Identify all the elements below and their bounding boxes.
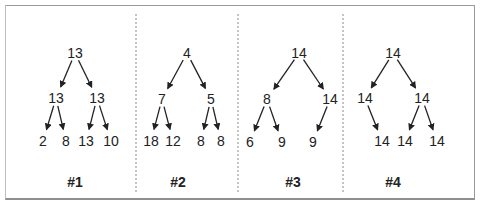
- arrow-edge: [191, 60, 206, 88]
- tree-node: 8: [263, 91, 271, 107]
- arrow-edge: [47, 106, 54, 130]
- tree-node: 13: [67, 45, 83, 61]
- tree-2: 475181288#2: [143, 45, 225, 190]
- tree-label: #3: [285, 174, 301, 190]
- arrow-edge: [154, 107, 160, 130]
- arrow-edge: [213, 107, 218, 130]
- tree-node: 7: [158, 91, 166, 107]
- tree-node: 4: [183, 45, 191, 61]
- tree-node: 18: [143, 133, 159, 149]
- tree-3: 14814699#3: [246, 45, 338, 190]
- arrow-edge: [168, 60, 184, 89]
- tree-node: 8: [197, 133, 205, 149]
- tree-node: 9: [278, 134, 286, 150]
- tree-node: 13: [48, 90, 64, 106]
- tree-node: 5: [207, 91, 215, 107]
- arrow-edge: [397, 60, 415, 88]
- tree-node: 14: [385, 45, 401, 61]
- arrow-edge: [254, 106, 264, 130]
- arrow-edge: [79, 60, 92, 87]
- arrow-edge: [425, 106, 433, 130]
- tree-node: 14: [357, 90, 373, 106]
- arrow-edge: [371, 60, 389, 88]
- tree-label: #4: [385, 174, 401, 190]
- tree-node: 14: [429, 133, 445, 149]
- tree-node: 10: [103, 133, 119, 149]
- tree-node: 2: [39, 133, 47, 149]
- tree-node: 14: [291, 45, 307, 61]
- tree-node: 8: [62, 133, 70, 149]
- arrow-edge: [304, 60, 324, 89]
- tree-1: 131313281310#1: [39, 45, 119, 190]
- tree-label: #1: [67, 174, 83, 190]
- tree-node: 13: [78, 133, 94, 149]
- tree-label: #2: [170, 174, 186, 190]
- arrow-edge: [204, 107, 209, 130]
- tree-node: 14: [414, 90, 430, 106]
- trees-group: 131313281310#1475181288#214814699#314141…: [39, 45, 445, 190]
- arrow-edge: [274, 60, 295, 90]
- arrow-edge: [368, 105, 378, 129]
- tree-node: 6: [246, 134, 254, 150]
- tree-node: 9: [309, 134, 317, 150]
- tree-node: 14: [374, 133, 390, 149]
- arrow-edge: [164, 107, 170, 130]
- tree-node: 12: [165, 133, 181, 149]
- binary-trees-diagram: 131313281310#1475181288#214814699#314141…: [0, 0, 484, 207]
- arrow-edge: [409, 105, 419, 129]
- tree-node: 14: [397, 133, 413, 149]
- tree-node: 14: [322, 91, 338, 107]
- tree-4: 141414141414#4: [357, 45, 445, 190]
- arrow-edge: [61, 60, 72, 87]
- panel-separators: [136, 14, 343, 194]
- arrow-edge: [270, 107, 278, 131]
- arrow-edge: [89, 106, 95, 130]
- arrow-edge: [58, 106, 64, 130]
- arrow-edge: [317, 106, 327, 130]
- tree-node: 13: [89, 90, 105, 106]
- arrow-edge: [100, 106, 108, 130]
- tree-node: 8: [217, 133, 225, 149]
